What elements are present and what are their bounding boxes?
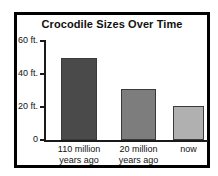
y-tick-40 xyxy=(40,73,46,75)
chart-inner-area: Crocodile Sizes Over Time 020 ft.40 ft.6… xyxy=(17,15,207,165)
category-label-line1: 110 million xyxy=(58,144,100,154)
category-label-line2: years ago xyxy=(50,155,108,166)
category-label-line1: 20 million xyxy=(119,144,157,154)
chart-canvas: Crocodile Sizes Over Time 020 ft.40 ft.6… xyxy=(0,0,218,176)
y-tick-label-40: 40 ft. xyxy=(17,68,38,78)
category-label-line1: now xyxy=(180,144,197,154)
bar-2 xyxy=(173,106,204,140)
y-tick-label-20: 20 ft. xyxy=(17,101,38,111)
y-tick-0 xyxy=(40,139,46,141)
category-label-line2: years ago xyxy=(110,155,168,166)
chart-frame-border: Crocodile Sizes Over Time 020 ft.40 ft.6… xyxy=(14,12,210,168)
bar-1 xyxy=(121,89,156,140)
y-axis-line xyxy=(44,41,46,141)
category-label-2: now xyxy=(160,144,218,155)
y-tick-60 xyxy=(40,40,46,42)
y-tick-label-0: 0 xyxy=(17,134,38,144)
bar-0 xyxy=(61,58,97,141)
y-tick-20 xyxy=(40,106,46,108)
x-axis-line xyxy=(44,140,208,142)
y-tick-label-60: 60 ft. xyxy=(17,35,38,45)
chart-title: Crocodile Sizes Over Time xyxy=(17,18,207,30)
category-label-0: 110 millionyears ago xyxy=(50,144,108,165)
